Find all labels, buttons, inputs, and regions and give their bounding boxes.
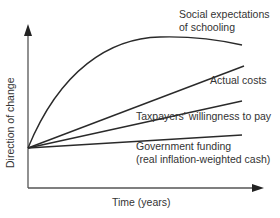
chart-canvas	[0, 0, 280, 218]
y-axis-label: Direction of change	[4, 78, 16, 168]
label-actual-costs: Actual costs	[210, 74, 267, 86]
label-taxpayers-willingness: Taxpayers' willingness to pay	[136, 110, 271, 122]
x-axis-label: Time (years)	[112, 196, 171, 208]
x-axis-arrow-icon	[252, 184, 264, 192]
label-government-funding-1: Government funding	[136, 140, 231, 152]
label-social-expectations-2: of schooling	[179, 21, 235, 33]
y-axis-arrow-icon	[24, 24, 32, 36]
line-social-expectations	[28, 37, 242, 148]
label-social-expectations-1: Social expectations	[179, 8, 269, 20]
label-government-funding-2: (real inflation-weighted cash)	[136, 153, 270, 165]
